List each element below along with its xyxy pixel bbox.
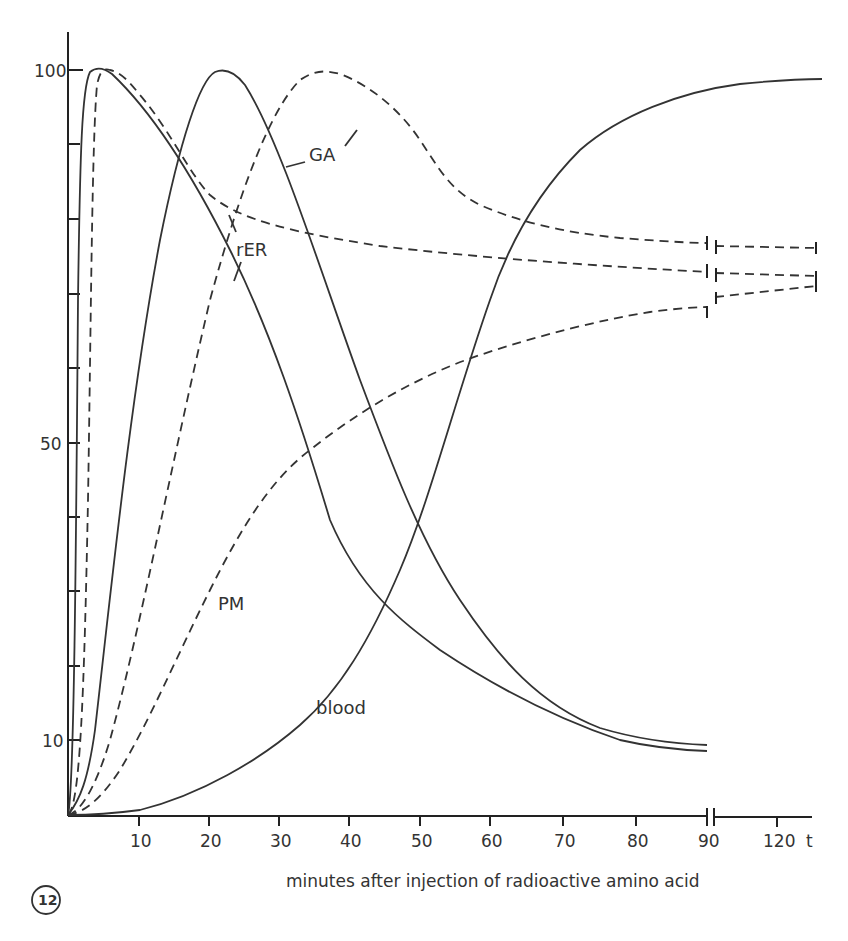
x-tick-60: 60: [481, 831, 503, 851]
ga-leader-left: [286, 162, 305, 167]
x-tick-30: 30: [270, 831, 292, 851]
x-axis-caption: minutes after injection of radioactive a…: [286, 871, 700, 891]
curve-rer-dashed: [68, 69, 816, 815]
x-tick-120: 120: [763, 831, 795, 851]
chart-figure: 100 50 10 10 20 30 40 50 60 70 80 90 120…: [0, 0, 848, 941]
curve-ga-solid: [68, 71, 707, 815]
x-tick-90: 90: [698, 831, 720, 851]
x-axis: [68, 808, 812, 827]
break-markers: [707, 236, 816, 318]
curve-ga-dashed: [68, 72, 816, 815]
label-ga: GA: [309, 144, 336, 165]
label-rer: rER: [236, 239, 267, 260]
curve-pm: [68, 286, 816, 815]
x-tick-10: 10: [130, 831, 152, 851]
x-tick-20: 20: [200, 831, 222, 851]
x-tick-40: 40: [340, 831, 362, 851]
x-tick-50: 50: [411, 831, 433, 851]
label-blood: blood: [316, 697, 366, 718]
figure-number: 12: [38, 892, 57, 908]
y-tick-50: 50: [40, 434, 62, 454]
curve-rer-solid: [68, 69, 707, 815]
x-tick-70: 70: [554, 831, 576, 851]
x-tick-80: 80: [627, 831, 649, 851]
y-tick-10: 10: [42, 731, 64, 751]
x-unit-t: t: [806, 831, 813, 851]
rer-leader-top: [229, 215, 236, 232]
label-pm: PM: [218, 593, 244, 614]
ga-leader-right: [345, 130, 357, 146]
curve-blood: [68, 79, 822, 815]
y-tick-100: 100: [34, 61, 66, 81]
